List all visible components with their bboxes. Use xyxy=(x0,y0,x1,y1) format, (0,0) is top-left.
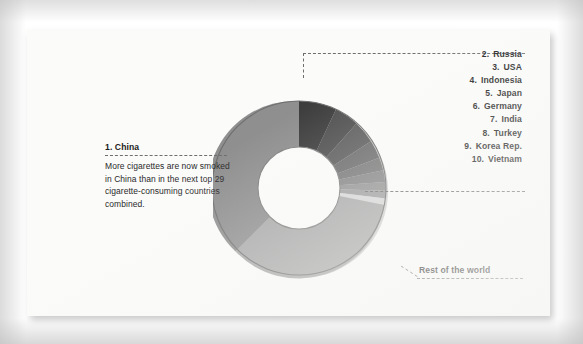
legend-item-label: Japan xyxy=(497,87,522,100)
legend-item-label: Korea Rep. xyxy=(476,140,522,153)
legend-item[interactable]: 9. Korea Rep. xyxy=(382,140,522,153)
rest-of-world-label: Rest of the world xyxy=(419,265,490,275)
legend-item-number: 2. xyxy=(482,48,489,61)
legend-item-number: 8. xyxy=(482,127,489,140)
legend-item-number: 6. xyxy=(473,100,480,113)
legend-item-number: 9. xyxy=(464,140,471,153)
china-callout-title: 1. China xyxy=(105,142,237,152)
legend-item[interactable]: 6. Germany xyxy=(382,100,522,113)
legend-item-label: India xyxy=(501,113,522,126)
legend-item-number: 4. xyxy=(470,74,477,87)
legend-leader-bottom xyxy=(365,191,525,192)
legend-item-label: USA xyxy=(504,61,522,74)
china-callout-body: More cigarettes are now smoked in China … xyxy=(105,160,237,210)
legend-leader-vertical xyxy=(303,53,304,78)
legend-item[interactable]: 4. Indonesia xyxy=(382,74,522,87)
legend-item-label: Indonesia xyxy=(481,74,522,87)
rest-of-world-leader-icon xyxy=(401,266,419,278)
donut-svg xyxy=(213,75,395,301)
legend-item-number: 3. xyxy=(492,61,499,74)
legend-item[interactable]: 7. India xyxy=(382,113,522,126)
legend-item[interactable]: 2. Russia xyxy=(382,48,522,61)
rest-of-world-rule xyxy=(417,278,523,279)
legend-item-label: Vietnam xyxy=(488,153,522,166)
legend-item-number: 10. xyxy=(472,153,484,166)
legend-item-label: Russia xyxy=(493,48,522,61)
legend-item[interactable]: 8. Turkey xyxy=(382,127,522,140)
legend-item[interactable]: 10. Vietnam xyxy=(382,153,522,166)
donut-chart xyxy=(213,75,395,301)
china-callout-rule xyxy=(105,155,227,156)
china-callout: 1. China More cigarettes are now smoked … xyxy=(105,142,237,210)
legend-item-label: Germany xyxy=(484,100,522,113)
donut-hole xyxy=(258,147,340,229)
legend-item[interactable]: 3. USA xyxy=(382,61,522,74)
figure-root: 2. Russia 3. USA 4. Indonesia 5. Japan 6… xyxy=(0,0,583,344)
legend-item-number: 5. xyxy=(485,87,492,100)
legend-item[interactable]: 5. Japan xyxy=(382,87,522,100)
chart-panel: 2. Russia 3. USA 4. Indonesia 5. Japan 6… xyxy=(27,30,550,316)
legend-list: 2. Russia 3. USA 4. Indonesia 5. Japan 6… xyxy=(382,48,522,166)
legend-item-label: Turkey xyxy=(494,127,522,140)
legend-item-number: 7. xyxy=(490,113,497,126)
